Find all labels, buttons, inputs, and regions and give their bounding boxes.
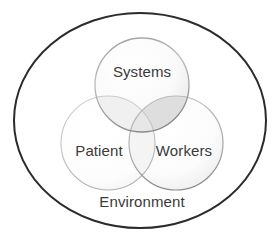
systems-label: Systems: [113, 63, 171, 80]
patient-label: Patient: [75, 142, 123, 159]
environment-label: Environment: [99, 193, 185, 210]
venn-diagram-canvas: Systems Patient Workers Environment: [0, 0, 280, 240]
venn-diagram-root: Systems Patient Workers Environment: [0, 0, 280, 240]
workers-label: Workers: [156, 142, 212, 159]
